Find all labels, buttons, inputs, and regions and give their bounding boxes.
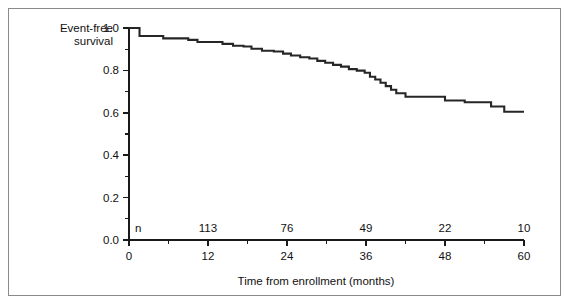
y-tick-label: 0.8 <box>103 64 119 76</box>
survival-curve <box>129 28 524 112</box>
at-risk-count: 22 <box>439 222 452 234</box>
y-tick-label: 0.4 <box>103 149 120 161</box>
y-tick-label: 0.2 <box>103 192 119 204</box>
survival-chart: 0.00.20.40.60.81.0 01224364860 n11376492… <box>0 0 571 306</box>
at-risk-count: 10 <box>518 222 531 234</box>
at-risk-count: 76 <box>281 222 294 234</box>
x-tick-label: 24 <box>281 250 294 262</box>
y-tick-label: 0.0 <box>103 234 119 246</box>
x-tick-label: 60 <box>518 250 531 262</box>
x-tick-label: 12 <box>202 250 215 262</box>
x-axis-tick-labels: 01224364860 <box>126 250 531 262</box>
y-axis-tick-labels: 0.00.20.40.60.81.0 <box>103 22 120 246</box>
at-risk-row-label: n <box>135 222 141 234</box>
y-tick-label: 0.6 <box>103 107 119 119</box>
y-axis-title-line-1: Event-free <box>60 22 113 34</box>
at-risk-count: 113 <box>199 222 217 234</box>
at-risk-count: 49 <box>360 222 373 234</box>
x-tick-label: 48 <box>439 250 452 262</box>
x-tick-label: 36 <box>360 250 373 262</box>
figure-container: 0.00.20.40.60.81.0 01224364860 n11376492… <box>0 0 571 306</box>
x-tick-label: 0 <box>126 250 132 262</box>
at-risk-row: n11376492210 <box>135 222 530 234</box>
y-axis-title-line-2: survival <box>74 35 113 47</box>
x-axis-title: Time from enrollment (months) <box>238 275 395 287</box>
